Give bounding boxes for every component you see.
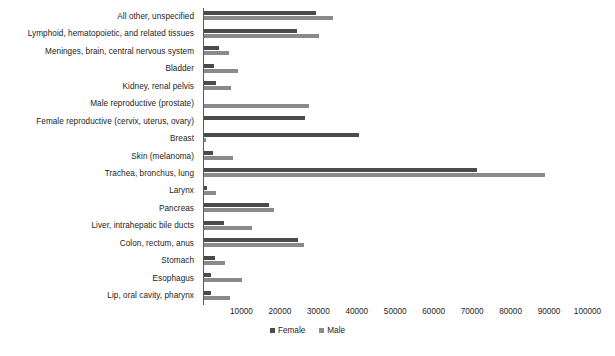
category-label: Lip, oral cavity, pharynx: [0, 291, 194, 300]
bar-female: [204, 221, 224, 225]
category-label: Lymphoid, hematopoietic, and related tis…: [0, 29, 194, 38]
bar-group: [204, 183, 596, 200]
chart-legend: FemaleMale: [0, 326, 615, 336]
x-tick-label: 70000: [461, 307, 484, 317]
legend-label: Male: [327, 326, 345, 335]
bar-male: [204, 16, 333, 20]
bar-male: [204, 296, 230, 300]
bar-male: [204, 69, 238, 73]
bar-female: [204, 238, 298, 242]
bar-female: [204, 151, 213, 155]
x-tick-label: 90000: [538, 307, 561, 317]
x-tick-label: 10000: [230, 307, 253, 317]
bar-male: [204, 226, 252, 230]
bar-group: [204, 78, 596, 95]
bar-group: [204, 148, 596, 165]
x-tick-label: 50000: [384, 307, 407, 317]
x-tick-label: 60000: [422, 307, 445, 317]
bar-group: [204, 270, 596, 287]
legend-item-male: Male: [319, 326, 345, 336]
bar-male: [204, 34, 319, 38]
bar-male: [204, 278, 242, 282]
bar-group: [204, 200, 596, 217]
bar-group: [204, 60, 596, 77]
x-tick-label: 100000: [574, 307, 601, 317]
bar-female: [204, 168, 477, 172]
category-axis-labels: All other, unspecifiedLymphoid, hematopo…: [0, 8, 199, 305]
bar-male: [204, 261, 225, 265]
x-tick-label: 40000: [345, 307, 368, 317]
category-label: All other, unspecified: [0, 12, 194, 21]
category-label: Liver, intrahepatic bile ducts: [0, 221, 194, 230]
bar-female: [204, 116, 305, 120]
x-tick-label: 20000: [269, 307, 292, 317]
category-label: Stomach: [0, 256, 194, 265]
category-label: Male reproductive (prostate): [0, 99, 194, 108]
bar-male: [204, 156, 233, 160]
legend-item-female: Female: [270, 326, 305, 336]
category-label: Breast: [0, 134, 194, 143]
plot-area: [203, 8, 595, 305]
bar-male: [204, 191, 216, 195]
bar-female: [204, 186, 207, 190]
category-label: Larynx: [0, 186, 194, 195]
x-tick-label: 30000: [307, 307, 330, 317]
bar-male: [204, 138, 206, 142]
bar-group: [204, 235, 596, 252]
bar-female: [204, 291, 211, 295]
category-label: Skin (melanoma): [0, 152, 194, 161]
bar-male: [204, 86, 231, 90]
cancer-incidence-bar-chart: All other, unspecifiedLymphoid, hematopo…: [0, 0, 615, 356]
bar-group: [204, 25, 596, 42]
legend-label: Female: [278, 326, 305, 335]
category-label: Trachea, bronchus, lung: [0, 169, 194, 178]
bar-female: [204, 46, 219, 50]
bar-female: [204, 133, 359, 137]
bar-female: [204, 256, 215, 260]
bar-female: [204, 81, 216, 85]
category-label: Female reproductive (cervix, uterus, ova…: [0, 117, 194, 126]
legend-swatch-icon: [270, 328, 275, 333]
bar-female: [204, 29, 297, 33]
bar-group: [204, 130, 596, 147]
category-label: Meninges, brain, central nervous system: [0, 47, 194, 56]
value-axis-tick-labels: 1000020000300004000050000600007000080000…: [203, 307, 603, 321]
category-label: Esophagus: [0, 274, 194, 283]
category-label: Pancreas: [0, 204, 194, 213]
bar-male: [204, 173, 545, 177]
category-label: Kidney, renal pelvis: [0, 82, 194, 91]
bar-group: [204, 288, 596, 305]
bar-group: [204, 43, 596, 60]
bar-female: [204, 273, 211, 277]
bar-male: [204, 51, 229, 55]
bar-female: [204, 64, 214, 68]
bar-group: [204, 165, 596, 182]
bar-male: [204, 243, 304, 247]
legend-swatch-icon: [319, 328, 324, 333]
bar-group: [204, 113, 596, 130]
bar-male: [204, 208, 274, 212]
bar-male: [204, 104, 309, 108]
category-label: Colon, rectum, anus: [0, 239, 194, 248]
bar-group: [204, 95, 596, 112]
bar-group: [204, 8, 596, 25]
bar-group: [204, 218, 596, 235]
bar-female: [204, 11, 316, 15]
category-label: Bladder: [0, 64, 194, 73]
bar-group: [204, 253, 596, 270]
x-tick-label: 80000: [499, 307, 522, 317]
bar-female: [204, 203, 269, 207]
